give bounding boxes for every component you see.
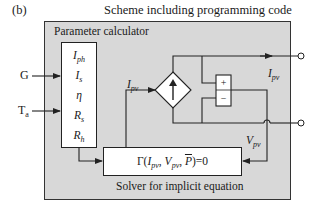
svg-text:+: +: [221, 77, 227, 88]
output-terminal-positive: [298, 53, 304, 59]
bottom-rail: [173, 108, 264, 123]
voltage-measurement-block: + −: [216, 75, 231, 106]
wiring: + −: [0, 0, 320, 212]
output-terminal-negative: [298, 120, 304, 126]
top-rail: [173, 56, 298, 72]
param-to-solver-arrow: [79, 148, 102, 161]
controlled-current-source-icon: [155, 72, 191, 108]
svg-text:−: −: [221, 93, 227, 104]
vpv-feedback-arrow: [231, 90, 267, 161]
ipv-to-source-arrow: [126, 90, 155, 147]
plus-branch: [202, 56, 216, 83]
minus-branch: [202, 98, 216, 123]
